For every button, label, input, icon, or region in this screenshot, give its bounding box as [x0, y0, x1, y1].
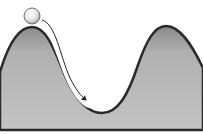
- ball: [24, 8, 40, 24]
- landscape-svg: [0, 0, 203, 134]
- energy-landscape-diagram: [0, 0, 203, 134]
- terrain: [0, 26, 203, 130]
